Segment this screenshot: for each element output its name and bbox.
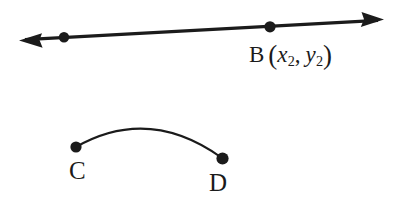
point-d-label: D	[209, 170, 227, 195]
point-c-label: C	[69, 158, 86, 183]
label-b-open-paren: (	[268, 40, 277, 70]
label-b-sub-y: 2	[316, 53, 323, 69]
geometry-figure-canvas	[0, 0, 395, 202]
label-b-var-x: x	[277, 42, 287, 67]
label-b-sub-x: 2	[288, 53, 295, 69]
point-b-dot	[264, 21, 275, 32]
right-arrowhead	[361, 12, 384, 27]
point-d-dot	[216, 152, 228, 164]
label-b-var-y: y	[306, 42, 316, 67]
arc-group	[70, 129, 228, 165]
label-b-comma: ,	[295, 42, 301, 67]
line-shaft	[25, 20, 378, 39]
left-arrowhead	[19, 33, 43, 48]
arc-curve	[76, 129, 222, 158]
label-b-close-paren: )	[323, 40, 332, 70]
point-c-dot	[70, 141, 81, 152]
point-b-label: B(x2, y2)	[249, 40, 332, 67]
point-a-dot	[59, 32, 69, 42]
label-b-letter: B	[249, 42, 264, 67]
